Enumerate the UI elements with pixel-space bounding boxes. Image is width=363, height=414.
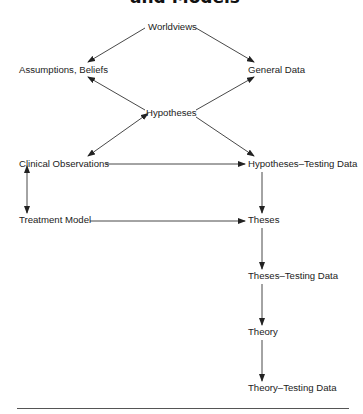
- edge-hypotheses-assumptions: [88, 77, 145, 110]
- node-treatment-model: Treatment Model: [19, 214, 91, 226]
- node-theory: Theory: [248, 326, 278, 338]
- node-theory-testing-data: Theory–Testing Data: [248, 382, 337, 394]
- bottom-rule-divider: [17, 408, 349, 409]
- node-worldviews: Worldviews: [148, 21, 197, 33]
- diagram-edges: [0, 0, 363, 414]
- node-clinical-observations: Clinical Observations: [19, 158, 109, 170]
- edge-worldviews-general-data: [196, 28, 254, 62]
- edge-hypotheses-htd: [196, 117, 254, 156]
- node-hypotheses: Hypotheses: [146, 107, 197, 119]
- edge-worldviews-assumptions: [88, 28, 145, 62]
- edge-hypotheses-clinical: [88, 117, 143, 156]
- node-theses: Theses: [248, 214, 279, 226]
- edge-hypotheses-general-data: [196, 77, 254, 110]
- node-general-data: General Data: [248, 64, 305, 76]
- node-theses-testing-data: Theses–Testing Data: [248, 270, 338, 282]
- node-assumptions-beliefs: Assumptions, Beliefs: [19, 64, 108, 76]
- node-hypotheses-testing-data: Hypotheses–Testing Data: [248, 158, 357, 170]
